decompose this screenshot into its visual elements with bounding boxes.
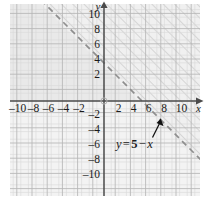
x-tick-label: 2: [116, 102, 122, 114]
x-axis-label: x: [195, 102, 201, 114]
y-tick-label: –8: [88, 153, 101, 165]
graph-figure: y x –10 –8 –6 –4 –2 2 4 6 8 10 10 8 6 4 …: [0, 0, 209, 211]
y-tick-label: –6: [88, 138, 101, 150]
x-tick-label: –8: [27, 102, 40, 114]
y-tick-label: 10: [89, 8, 101, 20]
y-tick-label: –2: [88, 108, 101, 120]
x-tick-label: –10: [8, 102, 27, 114]
y-tick-label: 2: [94, 68, 100, 80]
y-tick-label: –4: [88, 123, 101, 135]
x-tick-label: –2: [72, 102, 85, 114]
x-tick-label: 8: [161, 102, 167, 114]
x-tick-label: 4: [131, 102, 137, 114]
x-tick-label: –6: [42, 102, 55, 114]
y-tick-label: –10: [82, 168, 101, 180]
x-tick-label: 10: [176, 102, 188, 114]
coordinate-plane: y x –10 –8 –6 –4 –2 2 4 6 8 10 10 8 6 4 …: [0, 0, 209, 211]
y-tick-label: 8: [94, 23, 100, 35]
x-tick-label: 6: [146, 102, 152, 114]
y-tick-label: 6: [94, 38, 100, 50]
x-tick-label: –4: [57, 102, 70, 114]
y-tick-label: 4: [94, 53, 100, 65]
